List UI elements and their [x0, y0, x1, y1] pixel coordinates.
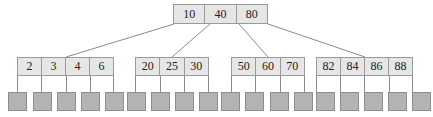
leaf-key: 20 [136, 58, 159, 75]
pointer-line [184, 76, 185, 92]
pointer-line [304, 76, 305, 92]
pointer-line [340, 76, 341, 92]
pointer-line [135, 76, 136, 92]
pointer-line [160, 76, 161, 92]
data-page [270, 92, 289, 111]
data-page [316, 92, 335, 111]
leaf-key: 84 [340, 58, 364, 75]
leaf-node-1: 2 3 4 6 [17, 57, 114, 76]
root-key: 40 [204, 5, 235, 23]
leaf-key: 3 [41, 58, 65, 75]
data-page [81, 92, 100, 111]
edge-root-leaf4 [268, 24, 365, 57]
leaf-key: 25 [159, 58, 183, 75]
pointer-line [231, 76, 232, 92]
edge-root-leaf1 [66, 24, 174, 57]
leaf-key: 86 [364, 58, 388, 75]
pointer-line [255, 76, 256, 92]
data-page [199, 92, 218, 111]
data-page [151, 92, 170, 111]
pointer-line [364, 76, 365, 92]
leaf-key: 88 [388, 58, 412, 75]
leaf-key: 30 [184, 58, 208, 75]
root-key: 80 [236, 5, 267, 23]
data-page [245, 92, 264, 111]
leaf-key: 50 [232, 58, 255, 75]
leaf-key: 82 [317, 58, 340, 75]
data-page [412, 92, 431, 111]
root-node: 10 40 80 [173, 4, 268, 24]
data-page [175, 92, 194, 111]
leaf-key: 70 [280, 58, 304, 75]
data-page [127, 92, 146, 111]
pointer-line [41, 76, 42, 92]
edge-root-leaf3 [239, 24, 268, 57]
data-page [57, 92, 76, 111]
leaf-node-3: 50 60 70 [231, 57, 305, 76]
leaf-key: 6 [89, 58, 113, 75]
data-page [221, 92, 240, 111]
pointer-line [316, 76, 317, 92]
leaf-node-4: 82 84 86 88 [316, 57, 413, 76]
pointer-line [17, 76, 18, 92]
data-page [340, 92, 359, 111]
leaf-node-2: 20 25 30 [135, 57, 209, 76]
data-page [364, 92, 383, 111]
data-page [33, 92, 52, 111]
leaf-key: 60 [255, 58, 279, 75]
edge-root-leaf2 [172, 24, 210, 57]
data-page [388, 92, 407, 111]
pointer-line [389, 76, 390, 92]
pointer-line [90, 76, 91, 92]
pointer-line [66, 76, 67, 92]
data-page [105, 92, 124, 111]
b-tree-diagram: 10 40 80 2 3 4 6 20 25 30 50 60 70 82 84… [0, 0, 433, 117]
root-key: 10 [174, 5, 204, 23]
data-page [8, 92, 27, 111]
pointer-line [208, 76, 209, 92]
leaf-key: 2 [18, 58, 41, 75]
pointer-line [280, 76, 281, 92]
pointer-line [412, 76, 413, 92]
data-page [294, 92, 313, 111]
pointer-line [113, 76, 114, 92]
leaf-key: 4 [65, 58, 89, 75]
